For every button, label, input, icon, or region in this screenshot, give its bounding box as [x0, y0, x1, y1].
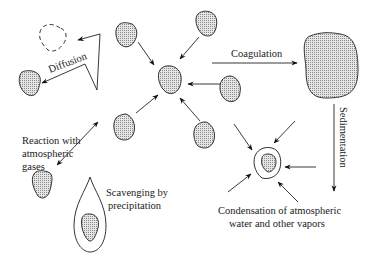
condensation-label-line1: Condensation of atmospheric: [218, 205, 341, 216]
raindrop-particle: [81, 214, 98, 241]
cond-arrow-bottom-left: [228, 174, 251, 192]
arrow-tl-to-center: [138, 42, 154, 65]
particle-right: [220, 76, 240, 102]
scavenging-label-line1: Scavenging by: [106, 187, 169, 198]
condensation-label-line2: water and other vapors: [229, 218, 325, 229]
dashed-particle-outline: [40, 25, 66, 52]
diffused-particle: [19, 71, 40, 96]
particle-bottom-left: [114, 114, 135, 140]
cond-arrow-top-right: [274, 121, 295, 143]
reacting-particle: [32, 171, 52, 198]
arrow-tr-to-center: [180, 37, 199, 59]
scavenging-label-line2: precipitation: [108, 200, 162, 211]
particle-bottom-right: [194, 122, 215, 148]
reaction-label-line2: atmospheric: [22, 148, 74, 159]
condensation-core: [261, 154, 276, 172]
diagram-canvas: Diffusion Coagulation Sedimentation Reac…: [0, 0, 369, 266]
particle-top-left: [116, 23, 137, 47]
central-particle: [158, 66, 181, 94]
reaction-label-line1: Reaction with: [22, 135, 81, 146]
particle-top-right: [196, 11, 217, 36]
large-particle: [304, 33, 358, 98]
arrow-bl-to-center: [136, 95, 158, 113]
cond-arrow-top-left: [234, 124, 252, 150]
cond-arrow-bottom-right: [278, 182, 298, 202]
coagulation-label: Coagulation: [231, 48, 283, 59]
sedimentation-label: Sedimentation: [338, 107, 349, 168]
arrow-br-to-center: [180, 98, 200, 121]
